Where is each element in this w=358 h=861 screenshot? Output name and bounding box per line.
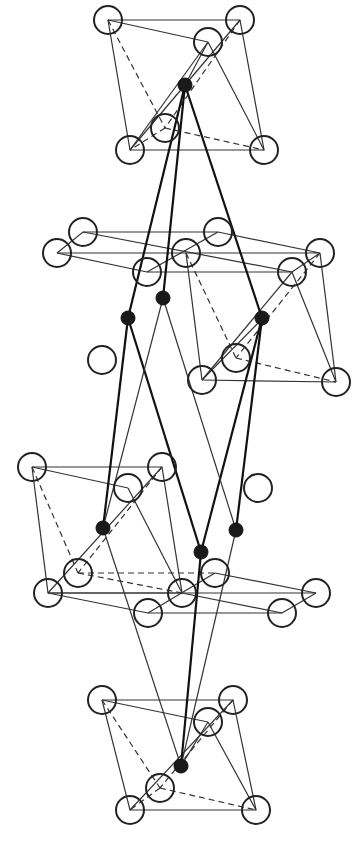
structure-canvas [0, 0, 358, 861]
cation-atom [121, 311, 135, 325]
cation-atom [255, 311, 269, 325]
crystal-structure-diagram [0, 0, 358, 861]
cation-atom [96, 521, 110, 535]
cation-atom [229, 523, 243, 537]
anion-atom [244, 474, 272, 502]
cation-sites [96, 78, 269, 773]
cation-atom [194, 545, 208, 559]
octahedron-bottom [102, 700, 256, 810]
cation-atom [178, 78, 192, 92]
anion-sites [18, 6, 350, 824]
anion-atom [88, 346, 116, 374]
octahedron-layer-3 [32, 467, 316, 613]
cation-atom [174, 759, 188, 773]
cation-atom [156, 291, 170, 305]
octahedron-layer-2 [57, 232, 336, 382]
